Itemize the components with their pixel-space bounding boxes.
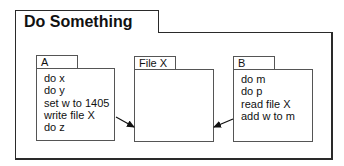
arrow-a-to-file bbox=[116, 117, 134, 127]
arrows-layer bbox=[0, 0, 344, 166]
arrow-b-to-file bbox=[214, 119, 233, 127]
